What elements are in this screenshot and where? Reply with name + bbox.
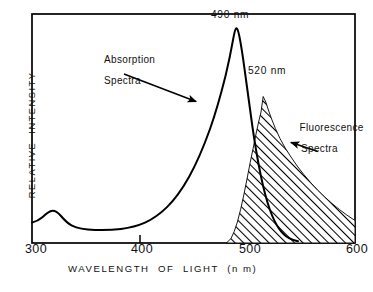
fluorescence-peak-label: 520 nm xyxy=(248,66,286,77)
absorption-peak-label: 490 nm xyxy=(211,10,249,21)
x-tick-label-600: 600 xyxy=(346,243,368,256)
fluorescence-series-label: Fluorescence Spectra xyxy=(287,112,364,175)
absorption-series-label-line1: Absorption xyxy=(104,54,155,65)
absorption-series-label: Absorption Spectra xyxy=(92,44,155,107)
x-tick-label-300: 300 xyxy=(25,243,47,256)
x-axis-title: WAVELENGTH OF LIGHT (n m) xyxy=(68,264,257,274)
spectra-figure: 300 400 500 600 WAVELENGTH OF LIGHT (n m… xyxy=(0,0,373,292)
fluorescence-series-label-line2: Spectra xyxy=(287,144,364,155)
absorption-series-label-line2: Spectra xyxy=(92,76,155,87)
fluorescence-series-label-line1: Fluorescence xyxy=(300,122,364,133)
y-axis-title: RELATIVE INTENSITY xyxy=(28,55,38,215)
x-tick-label-400: 400 xyxy=(131,243,153,256)
x-tick-label-500: 500 xyxy=(239,243,261,256)
